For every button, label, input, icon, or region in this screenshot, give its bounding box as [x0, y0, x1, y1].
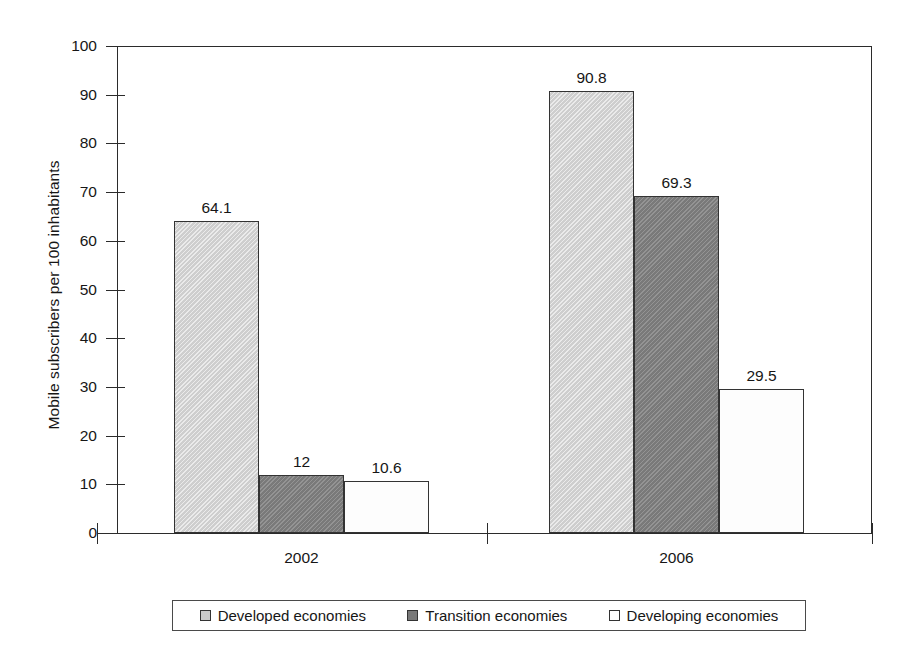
- legend-item-developing[interactable]: Developing economies: [609, 607, 779, 624]
- chart-legend: Developed economiesTransition economiesD…: [172, 600, 806, 631]
- y-tick-label: 60: [80, 232, 97, 250]
- y-tick-inner: [117, 387, 125, 388]
- bar-developing-2006[interactable]: 29.5: [719, 389, 804, 533]
- y-tick-label: 80: [80, 134, 97, 152]
- y-tick-inner: [117, 290, 125, 291]
- y-tick-label: 40: [80, 329, 97, 347]
- y-tick-label: 90: [80, 86, 97, 104]
- bar-value-label: 64.1: [201, 199, 231, 217]
- y-tick-inner: [117, 143, 125, 144]
- y-tick-inner: [117, 192, 125, 193]
- legend-label: Developing economies: [627, 607, 779, 624]
- y-tick-label: 30: [80, 378, 97, 396]
- y-tick-label: 0: [88, 524, 97, 542]
- bar-transition-2002[interactable]: 12: [259, 475, 344, 533]
- x-group-divider: [487, 523, 488, 533]
- y-tick: 10: [106, 484, 117, 485]
- x-tick: [97, 533, 98, 544]
- y-tick: 20: [106, 436, 117, 437]
- bar-value-label: 90.8: [576, 69, 606, 87]
- y-tick-inner: [117, 95, 125, 96]
- y-tick-label: 100: [71, 37, 97, 55]
- x-axis-label-2006: 2006: [617, 549, 737, 567]
- y-tick-inner: [117, 484, 125, 485]
- legend-item-transition[interactable]: Transition economies: [407, 607, 567, 624]
- bar-value-label: 69.3: [661, 174, 691, 192]
- x-axis-line: [97, 533, 872, 534]
- y-tick-label: 70: [80, 183, 97, 201]
- y-tick-inner: [117, 241, 125, 242]
- legend-label: Developed economies: [218, 607, 366, 624]
- legend-swatch-transition-icon: [407, 610, 418, 621]
- legend-label: Transition economies: [425, 607, 567, 624]
- bar-value-label: 10.6: [371, 459, 401, 477]
- y-axis-title: Mobile subscribers per 100 inhabitants: [45, 95, 63, 495]
- y-tick: 50: [106, 290, 117, 291]
- plot-top-border: [117, 46, 872, 47]
- bar-value-label: 29.5: [746, 367, 776, 385]
- y-tick: 90: [106, 95, 117, 96]
- y-tick: 100: [106, 46, 117, 47]
- y-tick: 30: [106, 387, 117, 388]
- y-tick-label: 20: [80, 427, 97, 445]
- bar-developed-2006[interactable]: 90.8: [549, 91, 634, 533]
- y-tick-inner: [117, 436, 125, 437]
- x-tick: [872, 533, 873, 544]
- y-tick-inner: [117, 338, 125, 339]
- y-tick: 40: [106, 338, 117, 339]
- y-tick: 0: [106, 533, 117, 534]
- y-tick-label: 50: [80, 281, 97, 299]
- y-tick: 70: [106, 192, 117, 193]
- x-tick-edge: [872, 523, 873, 533]
- plot-right-border: [871, 46, 872, 533]
- y-tick: 80: [106, 143, 117, 144]
- bar-developing-2002[interactable]: 10.6: [344, 481, 429, 533]
- legend-swatch-developed-icon: [200, 610, 211, 621]
- plot-area: 0102030405060708090100 64.11210.690.869.…: [117, 46, 872, 533]
- bar-transition-2006[interactable]: 69.3: [634, 196, 719, 533]
- bar-chart: Mobile subscribers per 100 inhabitants 0…: [0, 0, 900, 662]
- bar-value-label: 12: [293, 453, 310, 471]
- y-tick-inner: [117, 533, 125, 534]
- y-tick: 60: [106, 241, 117, 242]
- legend-item-developed[interactable]: Developed economies: [200, 607, 366, 624]
- x-tick-edge: [97, 523, 98, 533]
- x-tick: [487, 533, 488, 544]
- legend-swatch-developing-icon: [609, 610, 620, 621]
- y-tick-label: 10: [80, 475, 97, 493]
- x-axis-label-2002: 2002: [242, 549, 362, 567]
- bar-developed-2002[interactable]: 64.1: [174, 221, 259, 533]
